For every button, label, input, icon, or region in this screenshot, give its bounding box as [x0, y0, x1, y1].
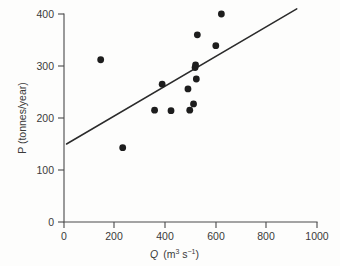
- axis-spines: [64, 14, 317, 222]
- x-axis-title-unit-mid: s: [179, 248, 187, 260]
- data-point: [194, 31, 201, 38]
- data-point: [151, 107, 158, 114]
- x-tick-label: 400: [156, 230, 174, 242]
- data-point: [185, 85, 192, 92]
- x-tick-label: 200: [105, 230, 123, 242]
- y-axis-ticks: [58, 14, 64, 222]
- x-axis-title-symbol: Q: [150, 248, 158, 260]
- x-axis-ticks: [64, 222, 317, 228]
- data-point: [190, 101, 197, 108]
- data-points: [97, 11, 224, 151]
- x-tick-label: 800: [257, 230, 275, 242]
- x-axis-title-unit-close: ): [195, 248, 199, 260]
- data-point: [193, 76, 200, 83]
- x-tick-label: 0: [61, 230, 67, 242]
- x-tick-label: 1000: [305, 230, 329, 242]
- x-axis-title: Q(m3 s−1): [150, 248, 199, 260]
- svg-text:Q(m3 s−1): Q(m3 s−1): [150, 248, 199, 260]
- data-point: [168, 107, 175, 114]
- data-point: [192, 62, 199, 69]
- scatter-plot: 0 100 200 300 400 0 200 400 600 800 1000…: [0, 0, 340, 266]
- y-axis-tick-labels: 0 100 200 300 400: [36, 8, 54, 228]
- data-point: [212, 42, 219, 49]
- y-tick-label: 100: [36, 164, 54, 176]
- x-axis-tick-labels: 0 200 400 600 800 1000: [61, 230, 329, 242]
- y-tick-label: 0: [48, 216, 54, 228]
- chart-figure: 0 100 200 300 400 0 200 400 600 800 1000…: [0, 0, 340, 266]
- data-point: [186, 107, 193, 114]
- data-point: [159, 81, 166, 88]
- data-point: [119, 144, 126, 151]
- y-tick-label: 200: [36, 112, 54, 124]
- y-axis-title: P (tonnes/year): [16, 82, 28, 154]
- y-tick-label: 400: [36, 8, 54, 20]
- x-axis-title-sup2: −1: [188, 248, 196, 255]
- data-point: [97, 56, 104, 63]
- x-axis-title-unit-open: (m: [163, 248, 175, 260]
- y-tick-label: 300: [36, 60, 54, 72]
- trend-line: [67, 9, 297, 144]
- data-point: [218, 11, 225, 18]
- x-tick-label: 600: [207, 230, 225, 242]
